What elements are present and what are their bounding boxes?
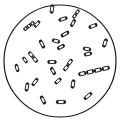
bacillus-rod (71, 80, 75, 89)
bacteria-group (15, 5, 110, 105)
bacillus-rod (70, 19, 76, 27)
bacillus-rod (50, 67, 56, 75)
bacillus-rod (83, 92, 92, 100)
bacillus-rod (22, 57, 28, 64)
microscope-field-figure: Rod-shaped bacteria with spores in micro… (0, 0, 124, 128)
bacillus-rod (57, 44, 65, 50)
bacillus-rod (59, 16, 68, 21)
bacillus-rod (89, 23, 98, 29)
bacillus-rod (56, 100, 65, 103)
bacillus-chain (28, 51, 38, 63)
bacillus-chain (78, 66, 109, 76)
bacteria-diagram (0, 0, 124, 128)
bacillus-chain (23, 21, 35, 31)
bacillus-chain (72, 9, 80, 18)
bacillus-rod (84, 52, 92, 56)
bacillus-rod (54, 78, 61, 85)
bacillus-rod (52, 39, 60, 44)
bacillus-rod (61, 31, 70, 38)
bacillus-rod (39, 40, 45, 49)
bacillus-rod (40, 96, 46, 105)
bacillus-rod (50, 5, 54, 14)
bacillus-rod (15, 64, 19, 72)
bacillus-rod (48, 60, 56, 63)
bacillus-rod (83, 47, 91, 51)
bacillus-rod (31, 78, 38, 86)
bacillus-rod (34, 20, 41, 27)
bacillus-rod (25, 83, 29, 92)
bacillus-rod (102, 39, 108, 48)
bacillus-chain (63, 59, 73, 72)
